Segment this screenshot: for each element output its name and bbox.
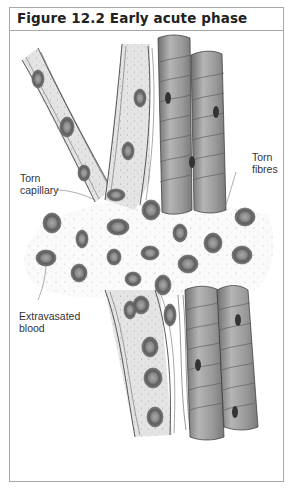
muscle-fibres-lower [185,286,258,441]
muscle-fibres-upper [158,35,226,214]
label-torn-fibres-line2: fibres [252,163,278,175]
label-extravasated-line2: blood [19,322,80,334]
label-extravasated-blood: Extravasated blood [19,310,80,334]
label-extravasated-line1: Extravasated [19,310,80,322]
injury-illustration [0,0,299,497]
capillary-upper-right [105,44,154,210]
label-torn-capillary-line1: Torn [20,172,59,184]
label-torn-capillary: Torn capillary [20,172,59,196]
label-torn-capillary-line2: capillary [20,184,59,196]
label-torn-fibres: Torn fibres [252,151,278,175]
label-torn-fibres-line1: Torn [252,151,278,163]
